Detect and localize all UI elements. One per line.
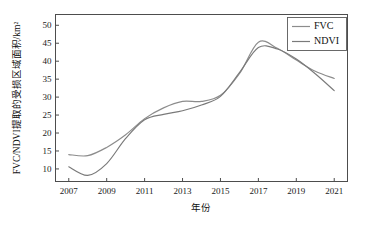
y-tick-label: 25 [43,110,53,120]
y-tick-label: 50 [43,20,53,30]
x-tick-label: 2015 [211,186,230,196]
x-tick-label: 2007 [60,186,79,196]
chart-figure: 101520253035404550 200720092011201320152… [0,0,365,227]
y-tick-label: 10 [43,164,53,174]
legend-label-ndvi: NDVI [314,35,339,46]
line-chart: 101520253035404550 200720092011201320152… [0,0,365,227]
legend-label-fvc: FVC [314,20,334,31]
x-axis-tick-labels: 20072009201120132015201720192021 [60,186,343,196]
x-axis-ticks [69,178,334,182]
y-tick-label: 20 [43,128,53,138]
y-tick-label: 30 [43,92,53,102]
y-axis-title: FVC/NDVI提取的受损区域面积/km² [11,22,22,175]
x-tick-label: 2013 [174,186,193,196]
x-tick-label: 2021 [325,186,343,196]
x-tick-label: 2011 [136,186,154,196]
chart-legend: FVC NDVI [288,18,347,51]
y-axis-tick-labels: 101520253035404550 [43,20,53,174]
x-tick-label: 2009 [98,186,117,196]
y-tick-label: 45 [43,38,53,48]
x-tick-label: 2019 [287,186,306,196]
plot-area-frame [56,15,348,182]
y-tick-label: 15 [43,146,53,156]
y-tick-label: 35 [43,74,53,84]
x-axis-title: 年份 [191,202,211,213]
data-series-group [69,41,334,176]
x-tick-label: 2017 [249,186,268,196]
series-line-ndvi [69,46,334,176]
y-axis-ticks [56,25,60,169]
y-tick-label: 40 [43,56,53,66]
